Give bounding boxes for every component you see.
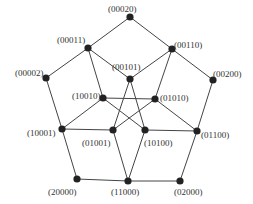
edge-00002-10001 (46, 78, 62, 129)
node-11000 (124, 177, 131, 184)
edge-01001-11000 (113, 130, 128, 181)
node-label: (00200) (213, 69, 242, 79)
edge-10001-20000 (62, 129, 77, 179)
node-02000 (176, 177, 183, 184)
edge-00200-01100 (197, 80, 213, 131)
edge-01100-02000 (180, 131, 197, 181)
edge-10100-01100 (145, 130, 197, 131)
node-00011 (84, 44, 91, 51)
node-01001 (109, 126, 116, 133)
node-label: (10100) (144, 138, 173, 148)
node-label: (01100) (201, 130, 229, 140)
node-00101 (126, 75, 133, 82)
node-label: (01001) (82, 138, 111, 148)
edge-00101-01001 (113, 79, 130, 130)
edge-00110-01010 (155, 49, 172, 99)
node-label: (20000) (48, 187, 77, 197)
node-label: (10010) (72, 91, 101, 101)
edge-00101-10100 (130, 79, 145, 130)
edge-10010-01010 (103, 98, 155, 99)
node-label: (02000) (174, 187, 203, 197)
edge-10010-10001 (62, 98, 103, 129)
edge-10001-01001 (62, 129, 113, 130)
labels: (00020)(00011)(00110)(00002)(00200)(0010… (15, 4, 242, 197)
edge-01010-01100 (155, 99, 197, 131)
node-00020 (126, 13, 133, 20)
edge-00020-00110 (130, 17, 172, 49)
node-label: (11000) (111, 187, 139, 197)
edge-20000-11000 (77, 179, 128, 181)
edge-01010-01001 (113, 99, 155, 130)
node-label: (10001) (27, 128, 56, 138)
node-10100 (141, 126, 148, 133)
edge-00110-00200 (172, 49, 213, 80)
node-label: (00002) (15, 68, 44, 78)
node-label: (00110) (174, 40, 202, 50)
edge-00011-00002 (46, 48, 88, 78)
node-label: (00101) (112, 62, 141, 72)
node-label: (00020) (108, 4, 137, 14)
node-20000 (73, 175, 80, 182)
edge-10100-11000 (128, 130, 145, 181)
node-label: (00011) (57, 35, 85, 45)
edge-10010-10100 (103, 98, 145, 130)
node-01010 (151, 95, 158, 102)
node-label: (01010) (160, 93, 189, 103)
node-01100 (193, 127, 200, 134)
node-10001 (58, 125, 65, 132)
graph-diagram: (00020)(00011)(00110)(00002)(00200)(0010… (0, 0, 253, 204)
edge-00020-00011 (88, 17, 130, 48)
